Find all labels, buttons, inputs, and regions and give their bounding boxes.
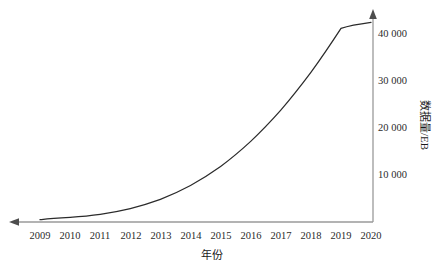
x-tick-label-2012: 2012 [121, 231, 142, 242]
x-tick-label-2020: 2020 [361, 231, 382, 242]
x-tick-label-2009: 2009 [30, 231, 51, 242]
x-axis-arrow-icon [9, 218, 19, 226]
x-tick-label-2017: 2017 [271, 231, 292, 242]
x-tick-label-2010: 2010 [60, 231, 81, 242]
y-tick-label-30000: 30 000 [378, 76, 407, 87]
x-tick-label-2016: 2016 [241, 231, 262, 242]
x-tick-label-2018: 2018 [301, 231, 322, 242]
x-axis-title: 年份 [201, 250, 223, 261]
y-axis-arrow-icon [369, 9, 377, 19]
x-tick-label-2013: 2013 [151, 231, 172, 242]
x-tick-label-2014: 2014 [181, 231, 202, 242]
y-tick-label-40000: 40 000 [378, 29, 407, 40]
y-axis-title: 数据量/EB [419, 100, 430, 150]
y-tick-label-20000: 20 000 [378, 123, 407, 134]
y-tick-label-10000: 10 000 [378, 170, 407, 181]
x-tick-label-2011: 2011 [90, 231, 111, 242]
x-tick-label-2015: 2015 [211, 231, 232, 242]
chart-figure: 2009 2010 2011 2012 2013 2014 2015 2016 … [0, 0, 441, 270]
data-series-line [40, 22, 371, 219]
x-tick-label-2019: 2019 [331, 231, 352, 242]
